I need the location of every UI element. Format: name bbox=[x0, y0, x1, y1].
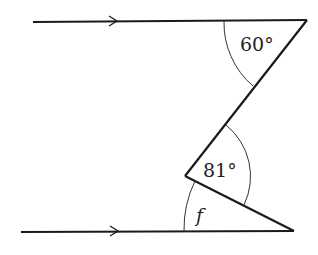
angle-label-top: 60° bbox=[240, 33, 274, 55]
bottom-parallel-line bbox=[21, 231, 294, 232]
top-parallel-line bbox=[33, 20, 307, 22]
angle-label-middle: 81° bbox=[203, 159, 237, 181]
angle-diagram: 60° 81° f bbox=[0, 0, 318, 255]
angle-label-unknown: f bbox=[194, 204, 206, 226]
angle-arc-f bbox=[184, 181, 195, 231]
